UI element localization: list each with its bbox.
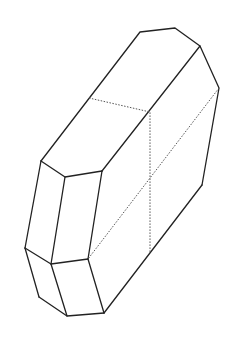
bottom-hex-edge — [39, 297, 104, 316]
right-vertical-upper-edge — [88, 171, 102, 259]
middle-hex-edge — [25, 248, 88, 264]
upper-hex-top-edge — [41, 161, 102, 177]
middle-vertical-lower-edge — [51, 264, 67, 316]
hidden-edges — [88, 88, 219, 259]
top-outline-edge — [41, 28, 219, 185]
hidden-diagonal-edge — [88, 88, 219, 259]
front-top-ridge-edge — [102, 46, 200, 171]
bottom-long-edge — [104, 185, 202, 313]
crystal-diagram — [0, 0, 240, 339]
left-outer-upper-edge — [25, 161, 41, 248]
visible-edges — [25, 28, 219, 316]
middle-vertical-upper-edge — [51, 177, 65, 264]
right-vertical-lower-edge — [88, 259, 104, 313]
